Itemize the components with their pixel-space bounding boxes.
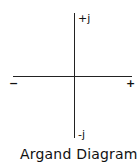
positive-real-label: + (126, 78, 135, 89)
negative-imaginary-label: -j (78, 129, 85, 140)
diagram-title: Argand Diagram (20, 146, 138, 162)
real-axis (13, 76, 132, 77)
negative-real-label: − (9, 78, 18, 89)
positive-imaginary-label: +j (78, 13, 90, 24)
